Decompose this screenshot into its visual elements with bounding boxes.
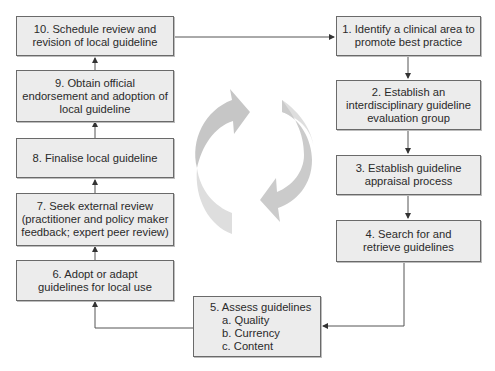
step-8-box: 8. Finalise local guideline	[16, 138, 174, 178]
step-7-box: 7. Seek external review (practitioner an…	[16, 193, 174, 246]
step-1-line-1: 1. Identify a clinical area to	[342, 23, 474, 36]
step-3-line-1: 3. Establish guideline	[356, 162, 462, 175]
step-10-line-2: revision of local guideline	[32, 36, 157, 49]
step-2-line-2: interdisciplinary guideline	[346, 99, 471, 112]
step-9-line-1: 9. Obtain official	[55, 77, 135, 90]
step-6-box: 6. Adopt or adapt guidelines for local u…	[16, 260, 174, 301]
step-5-box: 5. Assess guidelines a. Quality b. Curre…	[193, 296, 321, 357]
step-6-line-2: guidelines for local use	[38, 281, 152, 294]
step-5-criterion-content: c. Content	[210, 340, 273, 353]
step-8-line-1: 8. Finalise local guideline	[32, 152, 157, 165]
step-9-line-2: endorsement and adoption of	[22, 90, 168, 103]
step-3-box: 3. Establish guideline appraisal process	[336, 155, 481, 195]
cycle-arrows-icon	[195, 89, 314, 234]
step-2-line-3: evaluation group	[367, 112, 450, 125]
step-7-line-1: 7. Seek external review	[37, 200, 153, 213]
step-9-line-3: local guideline	[60, 103, 131, 116]
step-3-line-2: appraisal process	[365, 175, 453, 188]
step-4-line-2: retrieve guidelines	[363, 241, 454, 254]
step-10-line-1: 10. Schedule review and	[34, 23, 157, 36]
step-9-box: 9. Obtain official endorsement and adopt…	[16, 70, 174, 122]
step-4-box: 4. Search for and retrieve guidelines	[336, 220, 481, 262]
step-1-box: 1. Identify a clinical area to promote b…	[336, 16, 481, 56]
step-5-line-1: 5. Assess guidelines	[210, 301, 311, 314]
step-4-line-1: 4. Search for and	[366, 228, 452, 241]
step-2-box: 2. Establish an interdisciplinary guidel…	[336, 80, 481, 130]
step-10-box: 10. Schedule review and revision of loca…	[16, 16, 174, 56]
step-5-criterion-quality: a. Quality	[210, 314, 269, 327]
step-5-criterion-currency: b. Currency	[210, 327, 280, 340]
step-7-line-3: feedback; expert peer review)	[21, 226, 168, 239]
step-2-line-1: 2. Establish an	[372, 86, 445, 99]
step-1-line-2: promote best practice	[355, 36, 463, 49]
step-7-line-2: (practitioner and policy maker	[22, 213, 169, 226]
step-6-line-1: 6. Adopt or adapt	[52, 268, 137, 281]
